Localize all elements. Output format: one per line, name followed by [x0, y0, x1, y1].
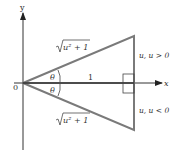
side-label-upper: u, u > 0	[139, 51, 169, 60]
hypotenuse-label-lower: u² + 1	[56, 113, 90, 125]
origin-label: 0	[13, 83, 18, 92]
svg-text:u² + 1: u² + 1	[63, 116, 88, 125]
svg-text:u² + 1: u² + 1	[63, 43, 88, 52]
base-label: 1	[88, 73, 93, 82]
theta-lower: θ	[50, 86, 55, 95]
x-axis-label: x	[164, 79, 169, 88]
side-label-lower: u, u < 0	[139, 106, 169, 115]
y-axis-label: y	[19, 3, 25, 12]
hypotenuse-label-upper: u² + 1	[56, 40, 90, 52]
triangle-diagram: y x 0 θ θ 1 u² + 1 u² + 1 u, u > 0 u, u …	[0, 0, 181, 153]
angle-arc-lower	[58, 84, 60, 96]
angle-arc-upper	[58, 70, 60, 82]
theta-upper: θ	[50, 73, 55, 82]
